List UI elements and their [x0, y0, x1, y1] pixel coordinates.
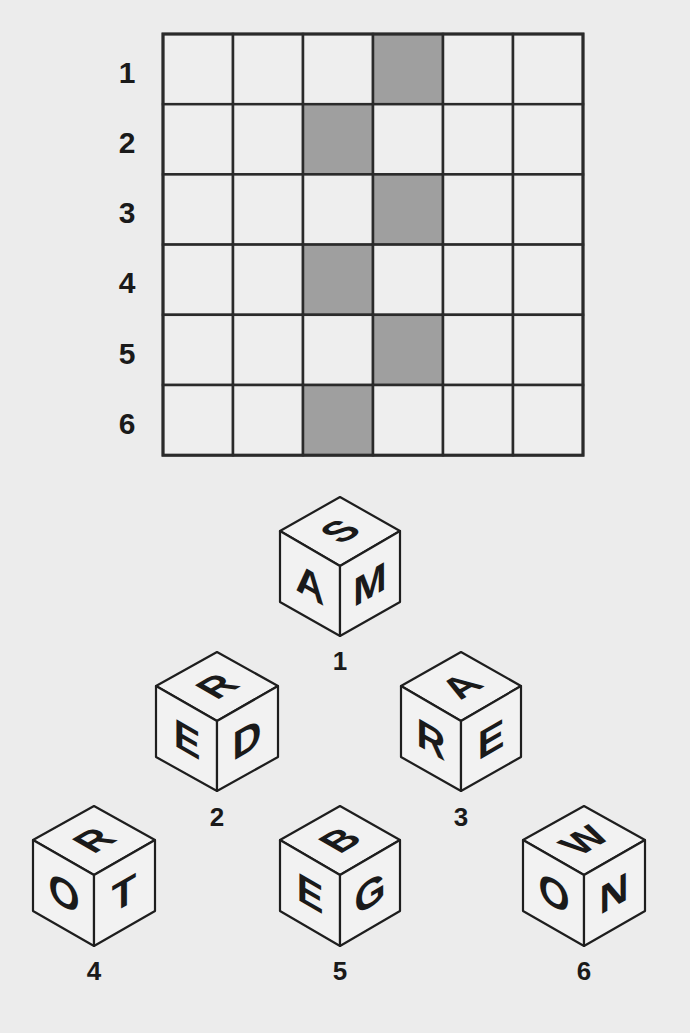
grid-cell: [233, 385, 303, 455]
grid-cell: [513, 315, 583, 385]
grid-cell: [443, 385, 513, 455]
grid-cell: [163, 104, 233, 174]
grid-cell: [373, 245, 443, 315]
grid-cell-shaded: [303, 245, 373, 315]
row-label-5: 5: [119, 337, 136, 370]
grid-cell-shaded: [373, 34, 443, 104]
grid-cell: [443, 34, 513, 104]
grid-cell: [233, 174, 303, 244]
row-label-2: 2: [119, 126, 136, 159]
grid-cell: [443, 315, 513, 385]
cube-5: B E G 5: [280, 806, 400, 986]
grid-cell: [373, 104, 443, 174]
grid-cell: [513, 385, 583, 455]
cube-5-number: 5: [333, 956, 347, 986]
grid-cell: [303, 34, 373, 104]
grid-cell: [513, 245, 583, 315]
grid-cell: [163, 174, 233, 244]
cube-3: A R E 3: [401, 652, 521, 832]
grid-cell: [513, 34, 583, 104]
cube-2-number: 2: [210, 802, 224, 832]
grid-cell: [443, 245, 513, 315]
grid-cell-shaded: [303, 385, 373, 455]
grid-cell: [163, 385, 233, 455]
grid-cell: [373, 385, 443, 455]
grid-cell-shaded: [373, 315, 443, 385]
cube-6-number: 6: [577, 956, 591, 986]
row-labels: 1 2 3 4 5 6: [119, 56, 136, 440]
grid-cell: [233, 104, 303, 174]
grid-cell: [443, 104, 513, 174]
row-label-4: 4: [119, 266, 136, 299]
grid-cell-shaded: [373, 174, 443, 244]
grid-cell: [163, 315, 233, 385]
cube-6: W O N 6: [523, 806, 645, 986]
grid-cell: [513, 174, 583, 244]
grid-cell: [443, 174, 513, 244]
cube-4: R O T 4: [33, 806, 155, 986]
grid-cell: [233, 315, 303, 385]
grid-cell: [163, 34, 233, 104]
cube-puzzle-diagram: 1 2 3 4 5 6 S A M 1 R E D: [0, 0, 690, 1033]
grid-cell-shaded: [303, 104, 373, 174]
grid-cell: [233, 34, 303, 104]
row-label-6: 6: [119, 407, 136, 440]
cube-2: R E D 2: [156, 652, 278, 832]
cube-1: S A M 1: [280, 497, 400, 676]
cube-3-number: 3: [454, 802, 468, 832]
letter-grid: [163, 34, 583, 455]
grid-cell: [233, 245, 303, 315]
row-label-1: 1: [119, 56, 136, 89]
grid-cell: [513, 104, 583, 174]
row-label-3: 3: [119, 196, 136, 229]
cube-4-number: 4: [87, 956, 102, 986]
cube-1-number: 1: [333, 646, 347, 676]
grid-cell: [163, 245, 233, 315]
grid-cell: [303, 174, 373, 244]
grid-cell: [303, 315, 373, 385]
